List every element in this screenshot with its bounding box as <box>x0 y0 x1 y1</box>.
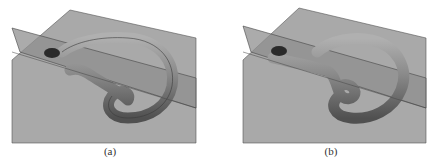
subfigure-caption-b: (b) <box>301 145 361 157</box>
tube-surface-rendering-b <box>221 0 442 168</box>
figure-panel-a: (a) <box>0 0 221 168</box>
subfigure-caption-a: (a) <box>80 145 140 157</box>
figure-panel-b: (b) <box>221 0 442 168</box>
tube-surface-rendering-a <box>0 0 221 168</box>
